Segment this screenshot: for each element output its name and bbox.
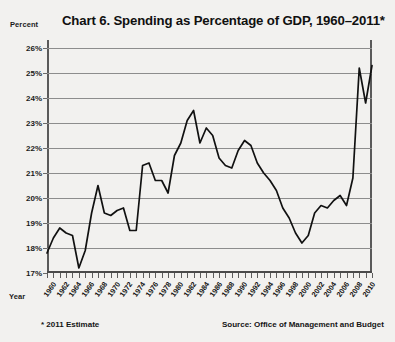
page-title: Chart 6. Spending as Percentage of GDP, …: [62, 13, 385, 28]
x-tick-mark: [155, 273, 156, 278]
x-tick-mark: [283, 273, 284, 278]
x-tick-mark: [264, 273, 265, 278]
x-tick-mark: [104, 273, 105, 278]
y-tick-label: 23%: [26, 119, 42, 128]
x-tick-mark: [143, 273, 144, 278]
x-tick-mark: [251, 273, 252, 278]
y-tick-label: 25%: [26, 69, 42, 78]
x-tick-mark: [200, 273, 201, 278]
x-tick-mark: [347, 273, 348, 278]
x-tick-mark: [315, 273, 316, 278]
x-tick-mark: [66, 273, 67, 278]
x-tick-mark: [117, 273, 118, 278]
x-tick-mark: [162, 273, 163, 278]
x-tick-mark: [98, 273, 99, 278]
x-tick-mark: [149, 273, 150, 278]
y-tick-label: 17%: [26, 269, 42, 278]
series-line: [47, 48, 372, 273]
y-tick-label: 18%: [26, 244, 42, 253]
x-tick-mark: [353, 273, 354, 278]
x-tick-mark: [302, 273, 303, 278]
y-axis-title: Percent: [10, 20, 38, 29]
x-tick-mark: [372, 273, 373, 278]
x-tick-mark: [206, 273, 207, 278]
chart-figure: Percent Year Chart 6. Spending as Percen…: [0, 0, 395, 342]
x-tick-mark: [60, 273, 61, 278]
estimate-footnote: * 2011 Estimate: [41, 320, 99, 329]
x-axis-title: Year: [9, 292, 25, 301]
x-tick-mark: [79, 273, 80, 278]
x-tick-mark: [194, 273, 195, 278]
y-tick-label: 19%: [26, 219, 42, 228]
x-tick-mark: [257, 273, 258, 278]
x-tick-mark: [296, 273, 297, 278]
x-tick-mark: [232, 273, 233, 278]
y-tick-label: 20%: [26, 194, 42, 203]
x-tick-label: 1992: [245, 280, 262, 299]
x-tick-mark: [219, 273, 220, 278]
y-tick-label: 24%: [26, 94, 42, 103]
x-tick-mark: [225, 273, 226, 278]
x-tick-label: 2000: [296, 280, 313, 299]
x-tick-mark: [47, 273, 48, 278]
x-tick-mark: [136, 273, 137, 278]
x-tick-mark: [245, 273, 246, 278]
x-tick-mark: [174, 273, 175, 278]
x-tick-mark: [321, 273, 322, 278]
x-tick-mark: [270, 273, 271, 278]
plot-area: 26%25%24%23%22%21%20%19%18%17% 196019621…: [47, 48, 372, 273]
x-tick-mark: [168, 273, 169, 278]
x-tick-mark: [123, 273, 124, 278]
x-tick-mark: [334, 273, 335, 278]
x-tick-mark: [340, 273, 341, 278]
x-tick-mark: [359, 273, 360, 278]
x-tick-mark: [111, 273, 112, 278]
x-tick-mark: [213, 273, 214, 278]
y-tick-label: 26%: [26, 44, 42, 53]
x-tick-mark: [85, 273, 86, 278]
x-tick-mark: [53, 273, 54, 278]
x-tick-mark: [327, 273, 328, 278]
x-tick-mark: [366, 273, 367, 278]
x-tick-mark: [308, 273, 309, 278]
x-tick-label: 2010: [360, 280, 377, 299]
y-tick-label: 21%: [26, 169, 42, 178]
y-tick-label: 22%: [26, 144, 42, 153]
x-tick-mark: [72, 273, 73, 278]
x-tick-mark: [276, 273, 277, 278]
x-tick-mark: [130, 273, 131, 278]
x-tick-mark: [238, 273, 239, 278]
x-tick-label: 2008: [347, 280, 364, 299]
x-tick-mark: [92, 273, 93, 278]
x-tick-mark: [187, 273, 188, 278]
source-footnote: Source: Office of Management and Budget: [222, 320, 384, 329]
x-tick-mark: [289, 273, 290, 278]
x-tick-mark: [181, 273, 182, 278]
